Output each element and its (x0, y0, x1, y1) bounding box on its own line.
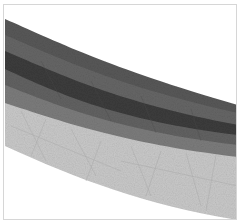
image-frame (3, 4, 237, 220)
strata-graphic (3, 4, 237, 220)
